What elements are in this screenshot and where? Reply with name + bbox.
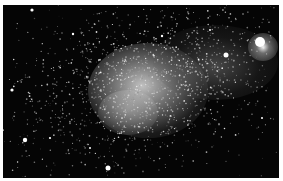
star-field xyxy=(3,5,279,178)
galaxy-photo xyxy=(3,5,279,178)
